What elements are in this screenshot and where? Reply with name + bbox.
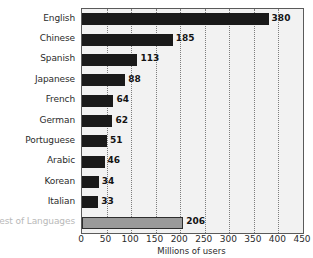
bar — [82, 13, 269, 25]
x-tick-label: 400 — [269, 234, 286, 244]
bar — [82, 156, 105, 168]
bar-value-label: 33 — [101, 197, 114, 206]
gridline — [205, 9, 206, 233]
bar-value-label: 380 — [272, 14, 291, 23]
category-label: Portuguese — [25, 136, 75, 145]
bar — [82, 34, 173, 46]
category-label: Korean — [44, 177, 75, 186]
bar-value-label: 34 — [102, 177, 115, 186]
x-tick-label: 300 — [220, 234, 237, 244]
category-label: French — [46, 95, 75, 104]
x-axis-title: Millions of users — [81, 246, 302, 256]
x-tick-label: 50 — [100, 234, 111, 244]
bar — [82, 95, 113, 107]
bar-value-label: 88 — [128, 75, 141, 84]
category-label: English — [43, 14, 75, 23]
category-label: Japanese — [35, 75, 75, 84]
bar-chart: EnglishChineseSpanishJapaneseFrenchGerma… — [0, 0, 313, 258]
bar-value-label: 51 — [110, 136, 123, 145]
x-axis-tick-labels: 050100150200250300350400450 — [81, 234, 302, 246]
gridline — [278, 9, 279, 233]
x-tick-label: 200 — [171, 234, 188, 244]
bar-value-label: 206 — [186, 217, 205, 226]
category-label: Rest of Languages — [0, 217, 75, 226]
bar — [82, 176, 99, 188]
category-label: Italian — [48, 197, 75, 206]
x-tick-label: 350 — [244, 234, 261, 244]
category-label: Chinese — [40, 34, 75, 43]
bar — [82, 115, 112, 127]
category-label: Spanish — [40, 54, 75, 63]
bar-value-label: 62 — [115, 116, 128, 125]
x-tick-label: 450 — [293, 234, 310, 244]
bar-value-label: 185 — [176, 34, 195, 43]
bar — [82, 74, 125, 86]
bar-value-label: 64 — [116, 95, 129, 104]
bar-value-label: 46 — [108, 156, 121, 165]
bar — [82, 54, 137, 66]
x-tick-label: 150 — [146, 234, 163, 244]
bar — [82, 135, 107, 147]
category-axis-labels: EnglishChineseSpanishJapaneseFrenchGerma… — [0, 8, 78, 232]
x-tick-label: 0 — [78, 234, 84, 244]
x-tick-label: 100 — [122, 234, 139, 244]
category-label: German — [40, 116, 75, 125]
x-tick-label: 250 — [195, 234, 212, 244]
bar — [82, 217, 183, 229]
bar-value-label: 113 — [140, 54, 159, 63]
bar — [82, 196, 98, 208]
category-label: Arabic — [47, 156, 75, 165]
gridline — [254, 9, 255, 233]
gridline — [229, 9, 230, 233]
